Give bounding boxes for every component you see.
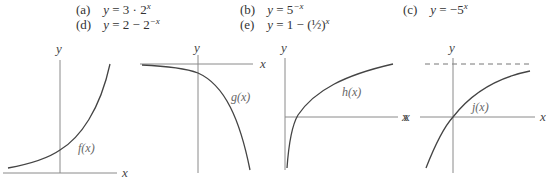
curve-f [8, 64, 110, 168]
curve-h [287, 64, 393, 168]
x-axis-label: x [539, 109, 546, 124]
y-axis-label: y [54, 41, 62, 56]
function-label-f: f(x) [78, 141, 95, 155]
y-axis-label: y [192, 40, 200, 55]
curve-j [426, 71, 530, 168]
function-label-g: g(x) [231, 90, 250, 104]
function-label-j: j(x) [470, 100, 489, 114]
graph-f: y x f(x) [3, 41, 128, 180]
y-axis-label: y [279, 40, 287, 55]
graph-j: y x x j(x) [403, 40, 546, 173]
y-axis-label: y [447, 40, 455, 55]
x-axis-label: x [259, 56, 266, 71]
function-label-h: h(x) [342, 85, 361, 99]
x-axis-label: x [121, 165, 128, 180]
graph-g: y x g(x) [140, 40, 266, 173]
curve-g [142, 65, 250, 170]
graph-h: y x h(x) [279, 40, 408, 170]
x-axis-label-left: x [403, 109, 410, 124]
graphs-figure: y x f(x) y x g(x) y x h(x) y x x j(x) [0, 0, 552, 187]
